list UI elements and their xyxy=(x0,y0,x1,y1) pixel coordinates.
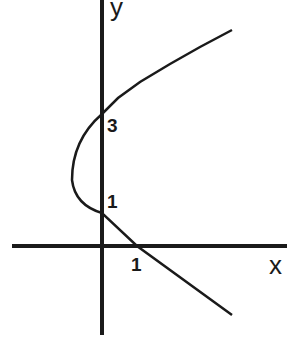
y-axis-label: y xyxy=(110,0,123,23)
y-tick-3: 3 xyxy=(107,115,118,137)
graph-svg xyxy=(0,0,297,350)
x-axis-label: x xyxy=(269,250,282,281)
y-tick-1: 1 xyxy=(107,191,118,213)
parabola-curve xyxy=(72,30,232,315)
x-tick-1: 1 xyxy=(131,254,142,276)
graph-diagram: y x 3 1 1 xyxy=(0,0,297,350)
